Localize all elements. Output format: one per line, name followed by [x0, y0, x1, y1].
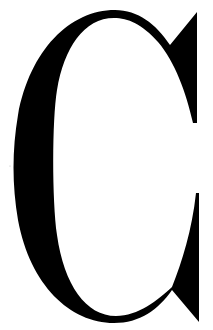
letter-c-figure: C — [0, 0, 213, 330]
letter-c-shape — [14, 10, 200, 323]
letter-c-glyph — [0, 0, 213, 330]
speck — [9, 165, 10, 166]
